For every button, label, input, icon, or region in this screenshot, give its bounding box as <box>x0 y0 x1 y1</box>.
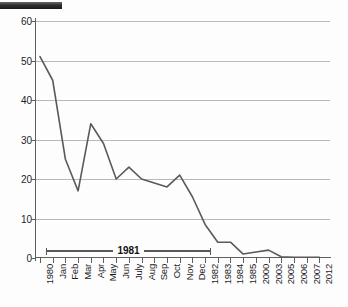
x-axis-tick <box>230 258 231 263</box>
data-line-series <box>36 21 330 258</box>
header-bar <box>0 2 62 9</box>
x-axis-tick-label: Jun <box>120 264 131 279</box>
x-axis-tick-label: Feb <box>69 264 80 280</box>
x-axis-tick-label: Jan <box>57 264 68 279</box>
x-axis-tick <box>281 258 282 263</box>
x-axis-tick-label: 2005 <box>285 264 296 284</box>
x-axis-tick <box>53 258 54 263</box>
x-axis-tick <box>269 258 270 263</box>
x-axis-tick <box>256 258 257 263</box>
x-axis-tick <box>78 258 79 263</box>
annotation-line-right <box>144 250 210 252</box>
x-axis-tick-label: Aug <box>146 264 157 280</box>
x-axis-tick <box>319 258 320 263</box>
x-axis-tick-label: 2006 <box>298 264 309 284</box>
x-axis-tick-label: Oct <box>171 264 182 278</box>
x-axis-tick-label: July <box>133 264 144 280</box>
x-axis-tick <box>154 258 155 263</box>
x-axis-tick <box>142 258 143 263</box>
y-axis-tick <box>31 219 36 220</box>
data-polyline <box>40 57 319 258</box>
x-axis-tick <box>294 258 295 263</box>
x-axis-tick-label: Nov <box>184 264 195 280</box>
y-axis-tick <box>31 61 36 62</box>
x-axis-tick-label: 1985 <box>247 264 258 284</box>
x-axis-tick <box>243 258 244 263</box>
x-axis-tick-label: May <box>107 264 118 281</box>
x-axis-tick <box>205 258 206 263</box>
x-axis-tick-label: 2012 <box>323 264 334 284</box>
x-axis-tick <box>40 258 41 263</box>
x-axis-tick <box>65 258 66 263</box>
x-axis-tick-label: 2007 <box>311 264 322 284</box>
y-axis-tick <box>31 179 36 180</box>
x-axis-tick <box>91 258 92 263</box>
x-axis-tick-label: 2000 <box>260 264 271 284</box>
annotation-line-left <box>47 250 113 252</box>
x-axis-tick-label: Sep <box>158 264 169 280</box>
x-axis-tick <box>167 258 168 263</box>
x-axis-tick-label: 1982 <box>209 264 220 284</box>
x-axis-tick <box>180 258 181 263</box>
x-axis-tick <box>103 258 104 263</box>
y-axis-tick <box>31 21 36 22</box>
x-axis-tick <box>129 258 130 263</box>
x-axis-tick-label: 2003 <box>273 264 284 284</box>
y-axis-tick <box>31 140 36 141</box>
chart-plot-area <box>36 21 330 258</box>
annotation-label: 1981 <box>113 246 143 256</box>
x-axis-tick-label: 1980 <box>44 264 55 284</box>
x-axis-tick-label: Dec <box>196 264 207 280</box>
x-axis-tick <box>192 258 193 263</box>
x-axis-labels: 1980JanFebMarAprMayJunJulyAugSepOctNovDe… <box>36 264 330 307</box>
x-axis-tick-label: Mar <box>82 264 93 280</box>
chart-page: 6050403020100 1980JanFebMarAprMayJunJuly… <box>0 0 348 307</box>
y-axis-tick <box>31 100 36 101</box>
x-axis-tick <box>307 258 308 263</box>
x-axis-tick-label: 1984 <box>234 264 245 284</box>
y-axis-labels: 6050403020100 <box>0 21 32 258</box>
annotation-1981-bracket: 1981 <box>46 244 211 258</box>
x-axis-tick-label: 1983 <box>222 264 233 284</box>
x-axis-tick-label: Apr <box>95 264 106 278</box>
x-axis-tick <box>218 258 219 263</box>
annotation-right-cap <box>210 248 211 255</box>
x-axis-tick <box>116 258 117 263</box>
